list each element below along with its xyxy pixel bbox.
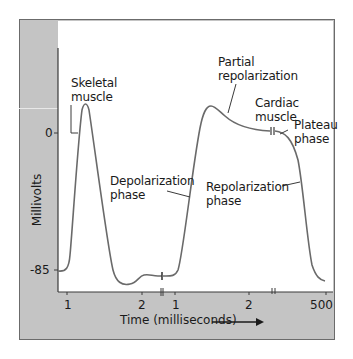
- x-tick-label: 500: [310, 298, 333, 312]
- x-tick-label: 2: [245, 298, 253, 312]
- label-plateau-line2: phase: [294, 132, 338, 146]
- label-skeletal-line1: Skeletal: [71, 76, 117, 90]
- partial-repol-leader: [228, 84, 236, 113]
- label-partial-repolarization: Partial repolarization: [218, 55, 298, 83]
- curve-break-2: [271, 127, 274, 135]
- y-tick-label-85: -85: [30, 263, 50, 277]
- skeletal-bracket: [71, 105, 78, 133]
- label-depolarization-phase: Depolarization phase: [110, 174, 194, 202]
- label-skeletal-line2: muscle: [71, 90, 117, 104]
- label-partial-line1: Partial: [218, 55, 298, 69]
- label-depol-line2: phase: [110, 188, 194, 202]
- label-partial-line2: repolarization: [218, 69, 298, 83]
- label-repol-line2: phase: [206, 194, 289, 208]
- label-cardiac-line1: Cardiac: [255, 96, 299, 110]
- label-plateau-line1: Plateau: [294, 118, 338, 132]
- label-cardiac-line2: muscle: [255, 110, 299, 124]
- y-tick-label-0: 0: [45, 126, 53, 140]
- label-skeletal: Skeletal muscle: [71, 76, 117, 104]
- label-plateau-phase: Plateau phase: [294, 118, 338, 146]
- label-repolarization-phase: Repolarization phase: [206, 180, 289, 208]
- x-tick-label: 2: [138, 298, 146, 312]
- label-depol-line1: Depolarization: [110, 174, 194, 188]
- time-arrow-head-icon: [256, 318, 264, 326]
- x-tick-label: 1: [172, 298, 180, 312]
- x-tick-label: 1: [64, 298, 72, 312]
- label-cardiac-muscle: Cardiac muscle: [255, 96, 299, 124]
- x-axis-break-2: [272, 288, 275, 294]
- y-axis-label: Millivolts: [30, 174, 44, 226]
- x-axis-label: Time (milliseconds): [120, 313, 237, 327]
- label-repol-line1: Repolarization: [206, 180, 289, 194]
